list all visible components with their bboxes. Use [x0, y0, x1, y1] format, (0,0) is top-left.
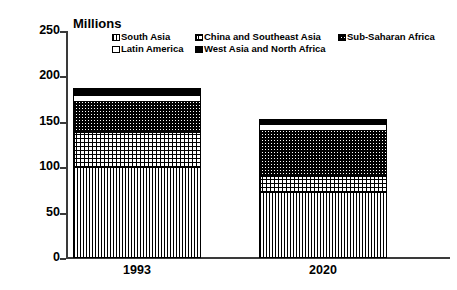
chart-title: Millions — [73, 16, 121, 31]
legend-swatch-dark-checkerboard-icon — [338, 34, 346, 41]
bar-segment-south-asia — [259, 192, 387, 258]
legend-item-west-asia-and-north-africa: West Asia and North Africa — [195, 44, 326, 54]
bar-2020 — [259, 119, 387, 258]
x-tick-label-1993: 1993 — [73, 263, 201, 277]
y-tick-mark — [60, 213, 66, 215]
legend-row: Latin America West Asia and North Africa — [112, 44, 452, 55]
bar-segment-west-asia-and-north-africa — [73, 88, 201, 95]
legend-item-china-and-southeast-asia: China and Southeast Asia — [195, 32, 338, 42]
legend-item-latin-america: Latin America — [112, 44, 195, 54]
bar-segment-sub-saharan-africa — [73, 101, 201, 132]
y-tick-label: 150 — [8, 114, 60, 128]
y-tick-label: 100 — [8, 159, 60, 173]
y-tick-label: 200 — [8, 68, 60, 82]
y-tick-label: 50 — [8, 205, 60, 219]
y-tick-mark — [60, 31, 66, 33]
bar-segment-sub-saharan-africa — [259, 130, 387, 176]
y-tick-mark — [60, 76, 66, 78]
legend-label: Latin America — [121, 44, 183, 54]
legend-label: South Asia — [121, 32, 170, 42]
bar-segment-china-and-southeast-asia — [259, 176, 387, 192]
legend-swatch-solid-black-icon — [195, 46, 203, 53]
bar-segment-south-asia — [73, 167, 201, 258]
y-tick-label: 0 — [8, 250, 60, 264]
chart-container: Millions South Asia China and Southeast … — [0, 0, 457, 290]
legend-swatch-white-icon — [112, 46, 120, 53]
legend-item-sub-saharan-africa: Sub-Saharan Africa — [338, 32, 435, 42]
bar-1993 — [73, 88, 201, 258]
x-tick-label-2020: 2020 — [259, 263, 387, 277]
legend-swatch-light-dotted-grid-icon — [195, 34, 203, 41]
legend-swatch-vertical-lines-icon — [112, 34, 120, 41]
legend-label: Sub-Saharan Africa — [347, 32, 435, 42]
y-tick-mark — [60, 167, 66, 169]
y-axis-line — [66, 31, 68, 259]
legend-item-south-asia: South Asia — [112, 32, 195, 42]
legend-row: South Asia China and Southeast Asia Sub-… — [112, 32, 452, 43]
legend-label: China and Southeast Asia — [204, 32, 321, 42]
legend-label: West Asia and North Africa — [204, 44, 326, 54]
chart-legend: South Asia China and Southeast Asia Sub-… — [112, 32, 452, 56]
bar-segment-china-and-southeast-asia — [73, 132, 201, 167]
y-tick-mark — [60, 122, 66, 124]
y-tick-mark — [60, 258, 66, 260]
y-tick-label: 250 — [8, 23, 60, 37]
